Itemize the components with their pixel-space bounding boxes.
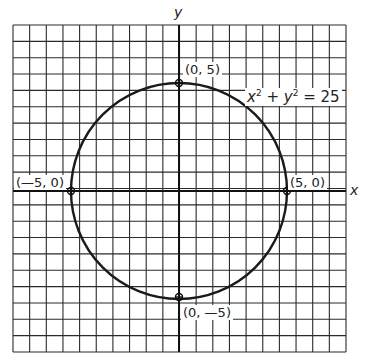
eq-x: x xyxy=(247,88,256,106)
point-label-top: (0, 5) xyxy=(183,62,222,77)
point-left xyxy=(68,188,75,195)
y-axis-label: y xyxy=(174,4,182,20)
eq-rest: = 25 xyxy=(298,88,339,106)
point-bottom xyxy=(176,294,183,301)
eq-plus: + xyxy=(262,88,284,106)
point-label-right: (5, 0) xyxy=(288,175,327,190)
eq-y: y xyxy=(284,88,293,106)
point-label-bottom: (0, —5) xyxy=(181,305,233,320)
point-top xyxy=(176,80,183,87)
equation-label: x2 + y2 = 25 xyxy=(245,88,342,106)
point-label-left: (—5, 0) xyxy=(14,175,66,190)
x-axis-label: x xyxy=(350,182,358,198)
